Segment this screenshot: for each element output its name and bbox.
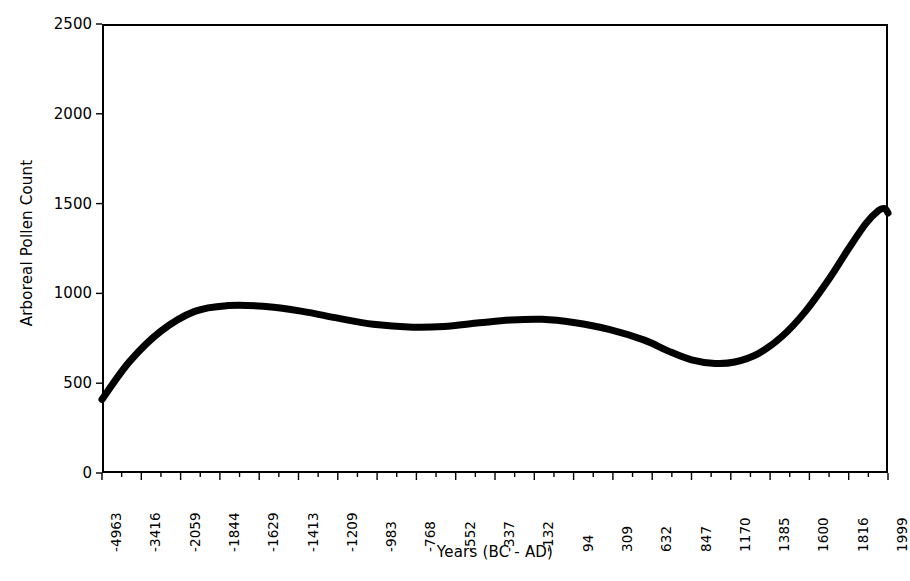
x-tick-label: 1385 [776,482,792,552]
x-tick-label: 309 [619,482,635,552]
x-tick-label: 632 [658,482,674,552]
x-tick-label: 94 [580,482,596,552]
x-tick-label: -1209 [344,482,360,552]
x-tick-label: -768 [422,482,438,552]
x-tick-label: -4963 [108,482,124,552]
x-tick-label: -337 [501,482,517,552]
x-tick-label: 1999 [894,482,910,552]
x-axis-title-text: Years (BC - AD) [437,543,553,561]
x-tick-label: 1600 [815,482,831,552]
x-tick-label: -1629 [265,482,281,552]
x-tick-label: -983 [383,482,399,552]
x-tick-label: 1170 [737,482,753,552]
x-tick-label: -2059 [187,482,203,552]
x-tick-label: 1816 [855,482,871,552]
x-tick-label: -552 [462,482,478,552]
x-axis-title: Years (BC - AD) [102,543,888,561]
x-tick-label: -1844 [226,482,242,552]
x-tick-label: -1413 [305,482,321,552]
x-tick-label: -132 [540,482,556,552]
x-tick-label: 847 [698,482,714,552]
x-tick-label: -3416 [147,482,163,552]
